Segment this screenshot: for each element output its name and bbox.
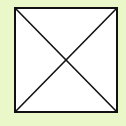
- crossed-box-graphic: [14, 7, 118, 113]
- canvas: [0, 0, 126, 126]
- crossed-box-icon: [14, 7, 118, 113]
